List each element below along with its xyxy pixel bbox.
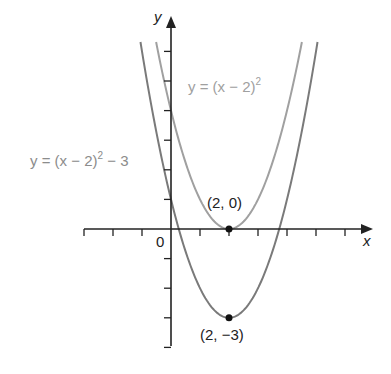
origin-label: 0 <box>156 233 164 250</box>
curve-label-base: y = (x − 2)2 <box>188 76 262 95</box>
curve-label-base-sup: 2 <box>256 76 262 87</box>
x-axis-label: x <box>362 232 371 249</box>
curve-label-shifted-tail: − 3 <box>103 152 128 169</box>
y-axis-label: y <box>153 8 163 25</box>
curve-label-base-main: y = (x − 2) <box>188 78 256 95</box>
point-label-vertex-shifted: (2, −3) <box>200 326 244 343</box>
vertex-point-shifted <box>226 314 233 321</box>
points <box>226 226 233 322</box>
y-axis-arrow-icon <box>166 16 176 28</box>
point-label-vertex-base: (2, 0) <box>207 194 242 211</box>
curve-label-shifted-main: y = (x − 2) <box>30 152 98 169</box>
parabola-diagram: x y 0 y = (x − 2)2 y = (x − 2)2 − 3 (2, … <box>0 0 391 374</box>
axes <box>84 16 373 347</box>
vertex-point-base <box>226 226 233 233</box>
curve-label-shifted: y = (x − 2)2 − 3 <box>30 150 129 169</box>
